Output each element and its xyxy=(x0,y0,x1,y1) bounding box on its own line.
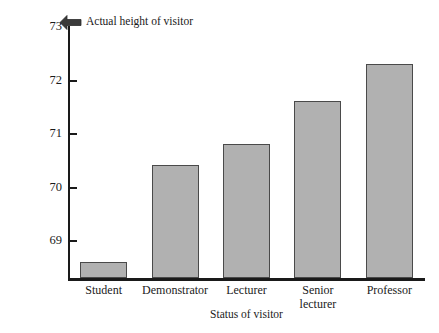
x-axis-title: Status of visitor xyxy=(68,308,425,320)
x-axis-line xyxy=(68,278,425,281)
bar-lecturer xyxy=(223,144,270,278)
y-tick-label: 73 xyxy=(50,20,63,33)
bar-professor xyxy=(366,64,413,278)
y-tick-label: 71 xyxy=(50,127,63,140)
bar-chart-figure: Mean perceived height (inches) Actual he… xyxy=(0,0,439,333)
x-category-label-demonstrator: Demonstrator xyxy=(139,284,210,298)
bar-student xyxy=(80,262,127,278)
bar-senior-lecturer xyxy=(294,101,341,278)
bar-demonstrator xyxy=(152,165,199,278)
y-tick-mark xyxy=(70,80,77,82)
y-tick-label: 72 xyxy=(50,73,63,86)
y-tick-mark xyxy=(70,133,77,135)
y-tick-label: 70 xyxy=(50,180,63,193)
y-tick-mark xyxy=(70,187,77,189)
x-category-label-senior-lecturer: Senior lecturer xyxy=(282,284,353,311)
x-category-label-student: Student xyxy=(68,284,139,298)
y-tick-label: 69 xyxy=(50,234,63,247)
plot-area: 6970717273 StudentDemonstratorLecturerSe… xyxy=(68,26,425,278)
x-category-label-professor: Professor xyxy=(354,284,425,298)
y-axis-title: Mean perceived height (inches) xyxy=(0,0,26,333)
x-category-label-lecturer: Lecturer xyxy=(211,284,282,298)
y-tick-mark xyxy=(70,240,77,242)
